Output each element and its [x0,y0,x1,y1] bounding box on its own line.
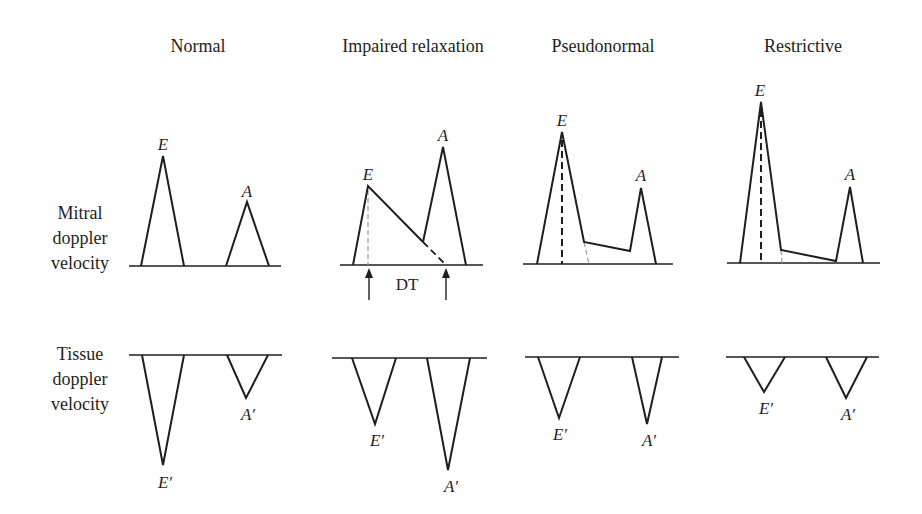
e-wave-label: E [754,81,766,100]
deceleration-extension [781,250,782,263]
panel-pseudonormal-tissue: E′ A′ [525,357,679,450]
row-label-mitral-line3: velocity [51,253,109,273]
e-prime-wave [352,358,396,424]
a-prime-wave [632,357,662,424]
row-label-tissue-line3: velocity [51,394,109,414]
e-prime-wave [142,355,184,465]
a-prime-label: A′ [840,405,855,424]
column-title-normal: Normal [171,36,226,56]
a-prime-label: A′ [240,405,255,424]
e-prime-wave [744,357,785,392]
a-prime-wave [826,357,867,398]
a-wave-label: A [241,182,253,201]
e-prime-label: E′ [758,399,773,418]
a-wave [423,147,466,265]
panel-pseudonormal-mitral: E A [523,111,673,264]
a-prime-wave [427,358,470,470]
row-label-mitral-line1: Mitral [58,203,103,223]
a-wave-label: A [635,166,647,185]
e-prime-label: E′ [157,473,172,492]
row-label-mitral-line2: doppler [53,228,108,248]
e-wave-label: E [556,111,568,130]
row-label-tissue-line1: Tissue [57,344,103,364]
a-prime-label: A′ [641,431,656,450]
a-prime-wave [227,355,268,398]
dt-end-arrowhead-icon [442,268,450,278]
row-label-mitral: Mitral doppler velocity [51,203,109,273]
a-prime-label: A′ [443,477,458,496]
e-prime-wave [538,357,580,418]
panel-impaired-mitral: E A DT [340,126,483,300]
deceleration-extension [584,242,589,264]
a-wave-label: A [437,126,449,145]
deceleration-extension [423,242,446,265]
e-wave [141,156,184,266]
doppler-diagram: Normal Impaired relaxation Pseudonormal … [0,0,922,514]
column-title-impaired-relaxation: Impaired relaxation [342,36,483,56]
e-prime-label: E′ [369,431,384,450]
panel-impaired-tissue: E′ A′ [332,358,487,496]
panel-restrictive-tissue: E′ A′ [726,357,879,424]
row-label-tissue: Tissue doppler velocity [51,344,109,414]
a-wave [226,202,269,266]
column-title-pseudonormal: Pseudonormal [552,36,655,56]
dt-label: DT [396,275,419,294]
e-wave-label: E [362,165,374,184]
row-label-tissue-line2: doppler [53,369,108,389]
panel-restrictive-mitral: E A [727,81,880,263]
column-title-restrictive: Restrictive [764,36,842,56]
panel-normal-mitral: E A [129,135,281,266]
e-prime-label: E′ [552,425,567,444]
e-wave-label: E [157,135,169,154]
dt-start-arrowhead-icon [365,268,373,278]
panel-normal-tissue: E′ A′ [129,355,282,492]
mitral-waveform [537,132,656,264]
e-wave [353,186,423,265]
a-wave-label: A [844,165,856,184]
